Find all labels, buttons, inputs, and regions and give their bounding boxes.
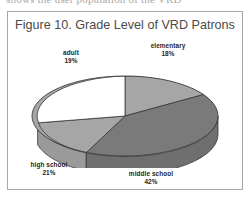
pie-label-elementary-pct: 18% [136, 50, 200, 58]
pie-label-high-school-pct: 21% [16, 169, 82, 177]
pie-label-adult-pct: 19% [44, 57, 98, 65]
pie-chart: elementary 18% adult 19% high school 21%… [8, 38, 242, 189]
figure-box: Figure 10. Grade Level of VRD Patrons [7, 11, 243, 190]
pie-label-middle-school: middle school 42% [112, 170, 190, 187]
pie-label-adult-name: adult [63, 49, 79, 56]
figure-title: Figure 10. Grade Level of VRD Patrons [8, 18, 242, 32]
pie-label-high-school-name: high school [31, 161, 68, 168]
pie-label-high-school: high school 21% [16, 161, 82, 178]
pie-graphic [30, 64, 220, 168]
pie-label-adult: adult 19% [44, 49, 98, 66]
pie-svg [30, 64, 220, 168]
pie-label-elementary-name: elementary [151, 42, 186, 49]
pie-label-middle-school-name: middle school [129, 170, 173, 177]
scan-top-cut-text: shows the user population of the VRD [6, 0, 246, 5]
pie-label-middle-school-pct: 42% [112, 178, 190, 186]
slice-top-adult [37, 76, 125, 123]
pie-label-elementary: elementary 18% [136, 42, 200, 59]
